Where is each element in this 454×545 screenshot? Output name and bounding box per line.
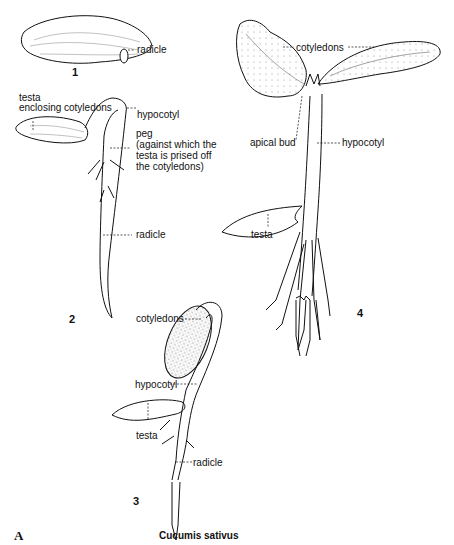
stage-4-apical-bud-label: apical bud bbox=[250, 137, 296, 148]
stage-2-radicle-label: radicle bbox=[136, 229, 165, 240]
stage-2-seedling bbox=[16, 98, 136, 318]
stage-4-number: 4 bbox=[357, 307, 363, 319]
stage-2-number: 2 bbox=[69, 313, 75, 325]
stage-3-seedling bbox=[112, 299, 222, 540]
stage-2-peg-note-2: testa is prised off bbox=[136, 150, 211, 161]
stage-3-hypocotyl-label: hypocotyl bbox=[135, 379, 177, 390]
stage-4-testa-label: testa bbox=[251, 229, 273, 240]
stage-1-radicle-label: radicle bbox=[137, 44, 166, 55]
stage-3-testa-label: testa bbox=[136, 430, 158, 441]
stage-2-peg-label: peg bbox=[136, 128, 153, 139]
stage-1-number: 1 bbox=[72, 66, 78, 78]
stage-2-hypocotyl-label: hypocotyl bbox=[137, 109, 179, 120]
stage-3-cotyledons-label: cotyledons bbox=[136, 313, 184, 324]
stage-2-testa-sub-label: enclosing cotyledons bbox=[19, 102, 112, 113]
stage-4-hypocotyl-label: hypocotyl bbox=[342, 137, 384, 148]
species-caption: Cucumis sativus bbox=[159, 530, 238, 541]
stage-4-cotyledons-label: cotyledons bbox=[296, 42, 344, 53]
stage-3-number: 3 bbox=[133, 495, 139, 507]
stage-4-seedling bbox=[222, 20, 440, 356]
diagram-drawing bbox=[0, 0, 454, 545]
seedling-diagram: radicle 1 testa enclosing cotyledons hyp… bbox=[0, 0, 454, 545]
stage-2-peg-note-3: the cotyledons) bbox=[136, 161, 204, 172]
stage-3-radicle-label: radicle bbox=[193, 457, 222, 468]
stage-1-seed bbox=[21, 16, 152, 64]
figure-letter: A bbox=[14, 528, 23, 544]
stage-2-peg-note-1: (against which the bbox=[136, 139, 217, 150]
